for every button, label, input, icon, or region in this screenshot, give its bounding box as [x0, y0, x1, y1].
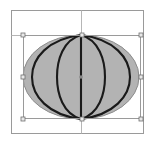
handle-top-right[interactable]: [139, 33, 143, 37]
handle-top-left[interactable]: [21, 33, 25, 37]
handle-bottom-left[interactable]: [21, 117, 25, 121]
handle-bottom-right[interactable]: [139, 117, 143, 121]
handle-middle-left[interactable]: [21, 75, 25, 79]
handle-bottom-center[interactable]: [80, 117, 84, 121]
handle-top-center[interactable]: [80, 33, 84, 37]
handle-middle-right[interactable]: [139, 75, 143, 79]
rotation-center-marker[interactable]: [79, 75, 83, 79]
vector-editor-canvas-view: [0, 0, 161, 144]
canvas-surface[interactable]: [0, 0, 161, 144]
